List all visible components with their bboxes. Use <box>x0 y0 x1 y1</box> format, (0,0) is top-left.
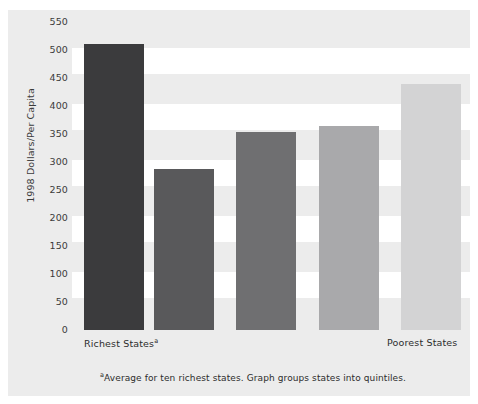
bar-chart-figure: 550 500 450 400 350 300 250 200 150 100 … <box>0 0 478 404</box>
y-tick-100: 100 <box>24 269 68 279</box>
x-label-richest-states-superscript: a <box>154 337 158 345</box>
bar-middle-quintile <box>236 132 296 330</box>
chart-footnote: aAverage for ten richest states. Graph g… <box>100 371 406 383</box>
y-tick-150: 150 <box>24 241 68 251</box>
y-tick-50: 50 <box>24 297 68 307</box>
footnote-text: Average for ten richest states. Graph gr… <box>104 373 406 383</box>
x-label-richest-states-text: Richest States <box>84 338 154 349</box>
x-label-poorest-states: Poorest States <box>387 337 457 348</box>
bar-quintile-2 <box>154 169 214 330</box>
x-label-richest-states: Richest Statesa <box>84 337 158 349</box>
y-tick-500: 500 <box>24 45 68 55</box>
y-tick-0: 0 <box>24 325 68 335</box>
y-axis-title: 1998 Dollars/Per Capita <box>25 56 36 236</box>
bar-poorest-states <box>401 84 461 330</box>
plot-area <box>72 22 470 330</box>
y-tick-550: 550 <box>24 17 68 27</box>
bar-quintile-4 <box>319 126 379 330</box>
bar-richest-states <box>84 44 144 330</box>
